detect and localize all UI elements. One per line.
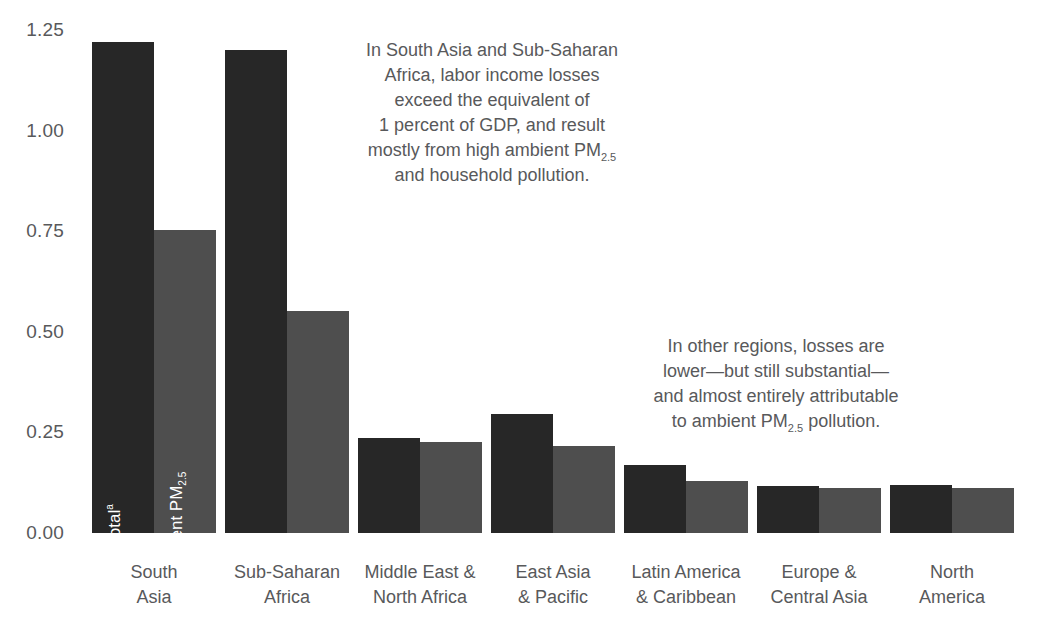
y-axis-tick-0-75: 0.75 — [26, 220, 64, 242]
x-axis-labels: SouthAsiaSub-SaharanAfricaMiddle East &N… — [72, 560, 1042, 630]
bar-total — [225, 50, 287, 533]
bar-total — [757, 486, 819, 533]
bar-group — [225, 30, 349, 533]
bar-total: Totala — [92, 42, 154, 533]
bar-total — [358, 438, 420, 533]
y-axis-tick-1-25: 1.25 — [26, 19, 64, 41]
bar-group — [624, 30, 748, 533]
bar-chart: 1.251.000.750.500.250.00 TotalaAmbient P… — [0, 0, 1042, 636]
bar-total — [491, 414, 553, 533]
bar-group — [890, 30, 1014, 533]
y-axis-tick-0-50: 0.50 — [26, 321, 64, 343]
bar-ambient-pm25 — [952, 488, 1014, 533]
y-axis-tick-1-00: 1.00 — [26, 120, 64, 142]
bar-group — [757, 30, 881, 533]
annotation-other-regions: In other regions, losses arelower—but st… — [628, 334, 924, 434]
bar-total — [624, 465, 686, 533]
bar-ambient-pm25 — [287, 311, 349, 533]
bar-group: TotalaAmbient PM2.5 — [92, 30, 216, 533]
bar-ambient-pm25 — [819, 488, 881, 533]
bar-ambient-pm25 — [553, 446, 615, 533]
x-axis-label-6: NorthAmerica — [862, 560, 1042, 610]
annotation-high-regions: In South Asia and Sub-SaharanAfrica, lab… — [348, 38, 636, 188]
y-axis-tick-0-25: 0.25 — [26, 421, 64, 443]
bar-label-total: Totala — [106, 504, 123, 533]
y-axis: 1.251.000.750.500.250.00 — [0, 0, 72, 636]
y-axis-tick-0-00: 0.00 — [26, 522, 64, 544]
bar-ambient-pm25 — [686, 481, 748, 533]
bar-ambient-pm25 — [420, 442, 482, 533]
bar-ambient-pm25: Ambient PM2.5 — [154, 230, 216, 533]
bar-label-ambient-pm25: Ambient PM2.5 — [168, 472, 185, 533]
bar-total — [890, 485, 952, 533]
